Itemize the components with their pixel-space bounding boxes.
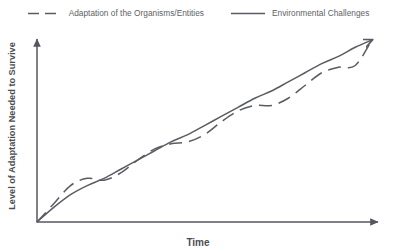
series-line-adaptation: [37, 40, 372, 222]
chart-plot-area: [0, 0, 396, 252]
chart-container: Adaptation of the Organisms/Entities Env…: [0, 0, 396, 252]
y-axis-title: Level of Adaptation Needed to Survive: [8, 42, 17, 210]
x-axis-title: Time: [186, 238, 209, 248]
series-line-environmental-challenges: [37, 40, 372, 222]
